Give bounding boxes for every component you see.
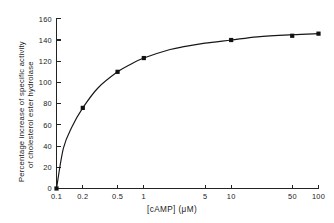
data-point xyxy=(54,186,58,190)
fitted-curve xyxy=(57,34,319,189)
y-axis-title-line1: Percentage increase of specific activity xyxy=(17,41,26,182)
y-tick-label-40: 40 xyxy=(43,142,52,151)
y-tick-label-100: 100 xyxy=(39,78,52,87)
y-tick-label-20: 20 xyxy=(43,163,52,172)
y-tick-label-160: 160 xyxy=(39,15,52,24)
y-axis-title-line2: of cholesterol ester hydrolase xyxy=(26,61,35,168)
x-tick-label-100: 100 xyxy=(312,192,325,201)
y-axis-title: Percentage increase of specific activity… xyxy=(17,41,35,182)
x-tick-label-10: 10 xyxy=(227,192,236,201)
data-point xyxy=(81,106,85,110)
x-tick-label-1: 1 xyxy=(142,192,146,201)
data-point xyxy=(142,56,146,60)
data-point-group xyxy=(54,32,320,191)
chart-figure: Percentage increase of specific activity… xyxy=(0,0,334,223)
x-tick-label-50: 50 xyxy=(288,192,297,201)
data-point xyxy=(290,34,294,38)
y-tick-label-140: 140 xyxy=(39,36,52,45)
x-axis-ticks: 0.1 0.2 0.5 1 5 10 50 100 xyxy=(51,185,325,201)
data-point xyxy=(115,70,119,74)
y-tick-label-120: 120 xyxy=(39,57,52,66)
x-tick-label-5: 5 xyxy=(203,192,207,201)
y-axis-ticks: 0 20 40 60 80 100 120 140 160 xyxy=(39,15,61,194)
x-tick-label-0.2: 0.2 xyxy=(77,192,88,201)
y-tick-label-60: 60 xyxy=(43,121,52,130)
plot-area: Percentage increase of specific activity… xyxy=(0,0,334,223)
x-axis-title: [cAMP] (μM) xyxy=(147,205,197,214)
y-tick-label-80: 80 xyxy=(43,99,52,108)
x-tick-label-0.5: 0.5 xyxy=(112,192,123,201)
x-tick-label-0.1: 0.1 xyxy=(51,192,62,201)
data-point xyxy=(229,38,233,42)
data-point xyxy=(316,32,320,36)
